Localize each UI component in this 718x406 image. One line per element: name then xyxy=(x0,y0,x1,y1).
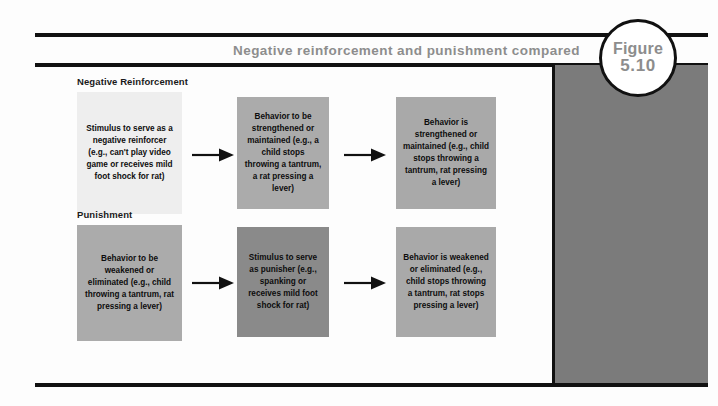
diagram-row-punishment: Punishment Behavior to be weakened or el… xyxy=(0,225,552,347)
box-punishment-outcome: Behavior is weakened or eliminated (e.g.… xyxy=(396,227,496,337)
box-text: Stimulus to serve as a negative reinforc… xyxy=(84,123,175,182)
footer-rule xyxy=(35,383,708,387)
box-negative-reinforcement-outcome: Behavior is strengthened or maintained (… xyxy=(396,97,496,209)
figure-page: Negative reinforcement and punishment co… xyxy=(0,0,718,406)
arrow-right-icon xyxy=(192,147,234,163)
diagram-row-negative-reinforcement: Negative Reinforcement Stimulus to serve… xyxy=(0,92,552,214)
box-text: Behavior is strengthened or maintained (… xyxy=(403,117,489,188)
figure-badge-label: Figure xyxy=(613,41,663,57)
box-punishment-stimulus: Stimulus to serve as punisher (e.g., spa… xyxy=(237,227,329,337)
side-panel xyxy=(552,65,708,383)
box-text: Behavior to be weakened or eliminated (e… xyxy=(84,253,175,312)
box-text: Stimulus to serve as punisher (e.g., spa… xyxy=(244,252,322,311)
diagram-canvas: Negative Reinforcement Stimulus to serve… xyxy=(0,65,552,383)
box-negative-reinforcement-behavior: Behavior to be strengthened or maintaine… xyxy=(237,97,329,209)
figure-number-badge: Figure 5.10 xyxy=(599,19,677,97)
row-label-negative-reinforcement: Negative Reinforcement xyxy=(77,76,188,87)
box-punishment-behavior: Behavior to be weakened or eliminated (e… xyxy=(77,225,182,341)
arrow-right-icon xyxy=(344,275,386,291)
figure-title: Negative reinforcement and punishment co… xyxy=(35,38,598,63)
figure-badge-number: 5.10 xyxy=(620,57,656,74)
arrow-right-icon xyxy=(192,275,234,291)
box-negative-reinforcement-stimulus: Stimulus to serve as a negative reinforc… xyxy=(77,92,182,214)
arrow-right-icon xyxy=(344,147,386,163)
box-text: Behavior is weakened or eliminated (e.g.… xyxy=(403,252,489,311)
box-text: Behavior to be strengthened or maintaine… xyxy=(244,111,322,194)
row-label-punishment: Punishment xyxy=(77,209,132,220)
